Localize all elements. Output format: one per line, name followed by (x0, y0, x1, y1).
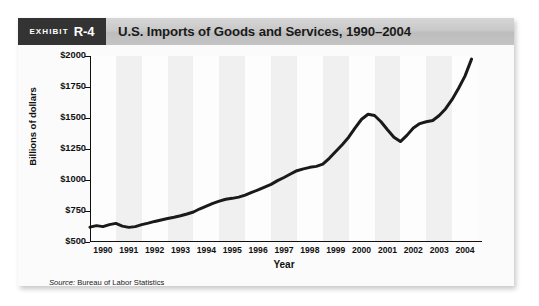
x-axis-tick-label: 2002 (404, 245, 423, 255)
y-axis-tick (85, 211, 90, 212)
y-axis-tick (85, 56, 90, 57)
y-axis-title: Billions of dollars (27, 67, 38, 187)
exhibit-header-bar: Exhibit R-4 U.S. Imports of Goods and Se… (18, 18, 514, 45)
source-text: Bureau of Labor Statistics (77, 278, 164, 287)
y-axis-tick (85, 118, 90, 119)
y-axis-tick-label: $1750 (60, 81, 86, 91)
x-axis-tick-label: 1994 (197, 245, 216, 255)
y-axis-tick (85, 242, 90, 243)
exhibit-card: Exhibit R-4 U.S. Imports of Goods and Se… (18, 18, 514, 286)
x-axis-labels: 1990199119921993199419951996199719981999… (90, 245, 478, 259)
source-note: Source: Bureau of Labor Statistics (49, 278, 164, 287)
x-axis-tick-label: 1995 (223, 245, 242, 255)
y-axis-tick-label: $500 (65, 236, 86, 246)
x-axis-tick-label: 1990 (93, 245, 112, 255)
plot-area (90, 56, 478, 242)
x-axis-line (90, 241, 482, 242)
source-label: Source: (49, 278, 75, 287)
x-axis-tick-label: 1997 (274, 245, 293, 255)
line-series (90, 56, 478, 242)
y-axis-tick (85, 149, 90, 150)
x-axis-tick-label: 2000 (352, 245, 371, 255)
y-axis-line (90, 56, 91, 242)
chart-title: U.S. Imports of Goods and Services, 1990… (118, 18, 411, 45)
x-axis-tick-label: 2003 (430, 245, 449, 255)
y-axis-tick-label: $1000 (60, 174, 86, 184)
y-axis-tick-label: $1500 (60, 112, 86, 122)
x-axis-tick-label: 2001 (378, 245, 397, 255)
y-axis-tick-label: $1250 (60, 143, 86, 153)
x-axis-tick-label: 2004 (456, 245, 475, 255)
y-axis-tick-label: $750 (65, 205, 86, 215)
chart-body: Billions of dollars $500$750$1000$1250$1… (18, 45, 514, 286)
y-axis-tick (85, 87, 90, 88)
x-axis-tick-label: 1998 (300, 245, 319, 255)
x-axis-tick-label: 1992 (145, 245, 164, 255)
exhibit-tag: Exhibit R-4 (18, 18, 106, 45)
exhibit-label: Exhibit (29, 27, 68, 36)
y-axis-tick (85, 180, 90, 181)
exhibit-number: R-4 (74, 24, 95, 39)
x-axis-title: Year (90, 259, 478, 270)
x-axis-tick-label: 1993 (171, 245, 190, 255)
import-series-line (90, 59, 472, 227)
x-axis-tick-label: 1991 (119, 245, 138, 255)
y-axis-tick-label: $2000 (60, 50, 86, 60)
x-axis-tick-label: 1996 (249, 245, 268, 255)
x-axis-tick-label: 1999 (326, 245, 345, 255)
y-axis-labels: $500$750$1000$1250$1500$1750$2000 (42, 56, 86, 242)
